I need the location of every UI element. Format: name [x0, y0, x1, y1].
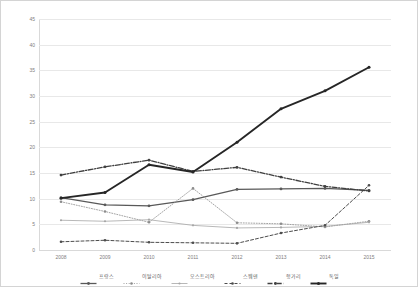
- series-line: [61, 220, 369, 228]
- series-4: [60, 159, 371, 193]
- x-axis-tick-label: 2008: [55, 255, 66, 260]
- data-point-marker: [104, 220, 106, 222]
- x-axis-tick-label: 2011: [188, 255, 199, 260]
- data-point-marker: [280, 223, 283, 226]
- data-point-marker: [324, 185, 327, 188]
- series-5: [60, 66, 371, 200]
- chart-legend: 프랑스이탈리아오스트리아스웨덴헝가리독일: [1, 273, 417, 280]
- plot-area: 051015202530354045 200820092010201120122…: [39, 19, 391, 250]
- data-point-marker: [236, 166, 239, 169]
- y-axis-tick-label: 20: [29, 145, 35, 150]
- data-point-marker: [192, 224, 194, 226]
- x-axis-tick-label: 2014: [319, 255, 330, 260]
- y-axis-tick-label: 5: [32, 222, 35, 227]
- gridline: [39, 250, 391, 251]
- y-axis-tick-label: 10: [29, 196, 35, 201]
- legend-label: 오스트리아: [190, 274, 215, 279]
- y-axis-tick-label: 40: [29, 42, 35, 47]
- legend-item[interactable]: 프랑스: [80, 273, 114, 280]
- data-point-marker: [192, 198, 195, 201]
- data-point-marker: [368, 221, 370, 223]
- y-axis-tick-label: 0: [32, 248, 35, 253]
- data-point-marker: [60, 200, 63, 203]
- data-point-marker: [104, 203, 107, 206]
- x-axis-tick-label: 2010: [143, 255, 154, 260]
- legend-item[interactable]: 오스트리아: [171, 273, 215, 280]
- y-axis-tick-label: 30: [29, 94, 35, 99]
- data-point-marker: [104, 165, 107, 168]
- legend-item[interactable]: 독일: [310, 273, 339, 280]
- legend-line-swatch: [80, 273, 97, 280]
- legend-item[interactable]: 헝가리: [267, 273, 301, 280]
- x-axis-tick-label: 2009: [99, 255, 110, 260]
- data-point-marker: [368, 190, 371, 193]
- y-axis-tick-label: 35: [29, 68, 35, 73]
- data-point-marker: [148, 159, 151, 162]
- data-point-marker: [104, 210, 107, 213]
- series-0: [60, 187, 371, 207]
- data-point-marker: [324, 224, 327, 227]
- data-point-marker: [104, 191, 107, 194]
- data-point-marker: [192, 242, 195, 245]
- legend-line-swatch: [224, 273, 241, 280]
- legend-label: 스웨덴: [243, 274, 258, 279]
- data-point-marker: [104, 239, 107, 242]
- line-chart: 051015202530354045 200820092010201120122…: [0, 0, 418, 287]
- data-point-marker: [192, 170, 195, 173]
- data-point-marker: [368, 66, 371, 69]
- legend-line-swatch: [310, 273, 327, 280]
- y-axis-tick-label: 45: [29, 17, 35, 22]
- data-point-marker: [236, 242, 239, 245]
- series-line: [61, 67, 369, 198]
- legend-line-swatch: [123, 273, 140, 280]
- legend-line-swatch: [171, 273, 188, 280]
- legend-line-swatch: [267, 273, 284, 280]
- data-point-marker: [368, 184, 371, 187]
- legend-item[interactable]: 이탈리아: [123, 273, 162, 280]
- data-point-marker: [148, 219, 150, 221]
- data-point-marker: [236, 221, 239, 224]
- data-point-marker: [60, 219, 62, 221]
- legend-label: 헝가리: [286, 274, 301, 279]
- legend-label: 프랑스: [99, 274, 114, 279]
- data-point-marker: [280, 232, 283, 235]
- data-point-marker: [148, 204, 151, 207]
- data-point-marker: [192, 187, 195, 190]
- series-2: [60, 219, 370, 229]
- legend-label: 이탈리아: [142, 274, 162, 279]
- data-point-marker: [236, 188, 239, 191]
- data-point-marker: [60, 197, 63, 200]
- data-point-marker: [60, 240, 63, 243]
- data-point-marker: [236, 141, 239, 144]
- data-point-marker: [236, 227, 238, 229]
- series-lines: [39, 19, 391, 250]
- data-point-marker: [280, 107, 283, 110]
- data-point-marker: [280, 188, 283, 191]
- data-point-marker: [148, 163, 151, 166]
- x-axis-tick-label: 2015: [363, 255, 374, 260]
- data-point-marker: [60, 174, 63, 177]
- series-line: [61, 160, 369, 191]
- data-point-marker: [324, 89, 327, 92]
- data-point-marker: [148, 221, 151, 224]
- y-axis-tick-label: 15: [29, 171, 35, 176]
- legend-label: 독일: [329, 274, 339, 279]
- legend-item[interactable]: 스웨덴: [224, 273, 258, 280]
- data-point-marker: [280, 176, 283, 179]
- x-axis-tick-label: 2013: [275, 255, 286, 260]
- data-point-marker: [148, 241, 151, 244]
- y-axis-tick-label: 25: [29, 119, 35, 124]
- data-point-marker: [280, 226, 282, 228]
- x-axis-tick-label: 2012: [231, 255, 242, 260]
